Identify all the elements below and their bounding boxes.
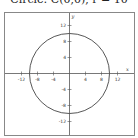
y-tick-label: 8	[63, 39, 66, 44]
x-tick-label: 8	[100, 77, 103, 82]
x-tick-label: 4	[84, 77, 87, 82]
y-tick-label: -4	[62, 87, 67, 92]
y-tick-label: 12	[60, 23, 66, 28]
axes	[5, 13, 134, 135]
y-tick-label: -8	[62, 103, 67, 108]
y-tick-label: 4	[63, 55, 66, 60]
y-axis-label: y	[71, 13, 75, 20]
x-axis-label: x	[126, 66, 129, 72]
x-tick-label: -8	[35, 77, 40, 82]
plot-area: -12-8-448121284-4-8-12 x y	[0, 0, 138, 138]
x-tick-label: 12	[115, 77, 121, 82]
y-tick-label: -12	[59, 119, 66, 124]
x-tick-label: -12	[18, 77, 25, 82]
x-tick-label: -4	[51, 77, 56, 82]
